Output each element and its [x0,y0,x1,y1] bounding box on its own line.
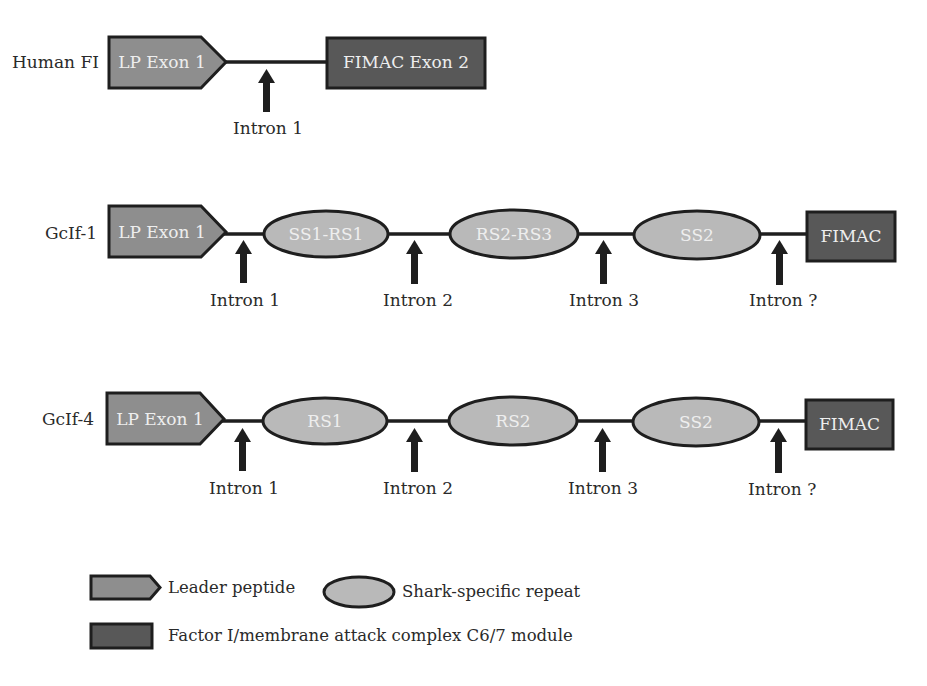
intron-label: Intron ? [748,479,816,499]
legend-label-shark-repeat: Shark-specific repeat [402,582,580,602]
legend-shark-repeat-icon [324,577,394,607]
segment-label-rs1: RS1 [263,411,387,431]
intron-label: Intron ? [749,290,817,310]
intron-arrow-icon [595,240,612,284]
intron-arrow-icon [770,428,787,473]
intron-arrow-icon [594,428,611,472]
intron-label: Intron 3 [568,478,638,498]
segment-label-rs2: RS2 [449,411,577,431]
intron-label: Intron 3 [569,290,639,310]
segment-label-ss1-rs1: SS1-RS1 [264,224,388,244]
segment-label-fimac-exon-2: FIMAC Exon 2 [330,52,482,72]
intron-label: Intron 1 [210,290,280,310]
intron-arrow-icon [406,240,423,284]
row-gcif-1 [109,206,895,285]
legend-label-fimac: Factor I/membrane attack complex C6/7 mo… [168,626,573,646]
row-human-fi [109,37,485,112]
intron-label: Intron 2 [383,478,453,498]
row-label-human-fi: Human FI [12,52,99,72]
row-gcif-4 [107,393,893,473]
segment-label-lp-exon-1: LP Exon 1 [112,52,212,72]
legend-fimac-icon [91,624,152,648]
intron-arrow-icon [771,240,788,285]
row-label-gcif-1: GcIf-1 [45,223,97,243]
segment-label-lp-exon-1: LP Exon 1 [112,222,212,242]
row-label-gcif-4: GcIf-4 [42,409,94,429]
intron-label: Intron 2 [383,290,453,310]
intron-label: Intron 1 [233,118,303,138]
intron-arrow-icon [235,240,252,283]
intron-arrow-icon [234,428,251,471]
legend-leader-peptide-icon [91,576,160,599]
intron-arrow-icon [258,69,275,112]
segment-label-fimac: FIMAC [807,226,895,246]
segment-label-rs2-rs3: RS2-RS3 [450,224,578,244]
segment-label-ss2: SS2 [634,225,760,245]
intron-label: Intron 1 [209,478,279,498]
segment-label-lp-exon-1: LP Exon 1 [110,409,210,429]
intron-arrow-icon [406,428,423,472]
segment-label-ss2: SS2 [633,412,759,432]
legend-label-leader-peptide: Leader peptide [168,578,295,598]
segment-label-fimac: FIMAC [806,414,893,434]
